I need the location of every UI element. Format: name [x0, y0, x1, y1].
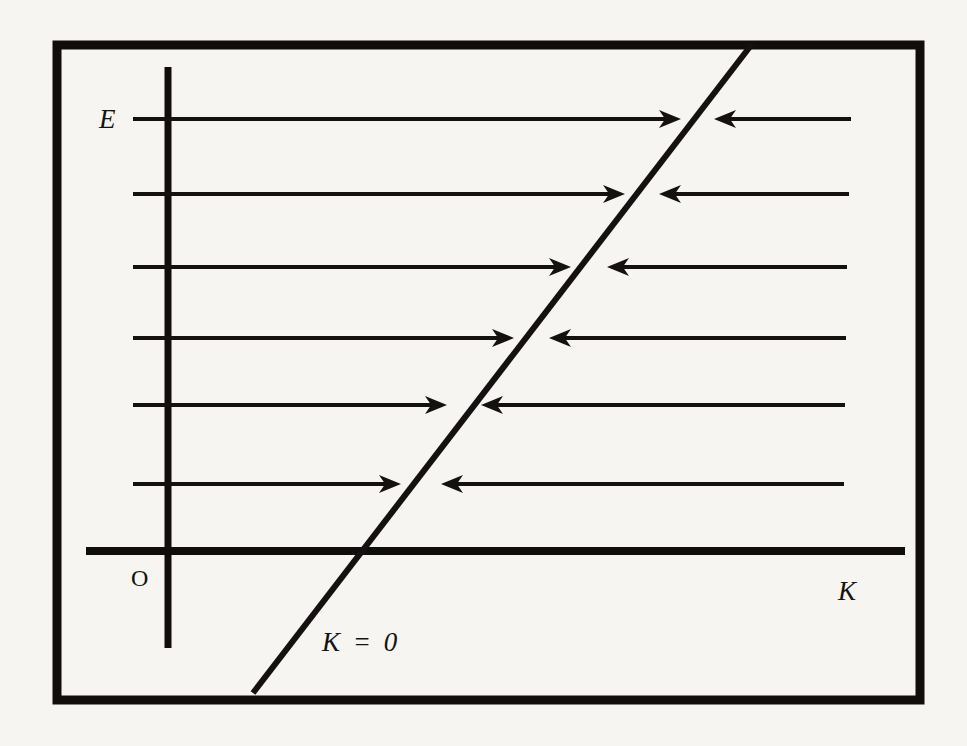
phase-diagram-svg: E K O K = 0 — [0, 0, 967, 746]
x-axis-label: K — [837, 576, 858, 606]
y-axis-label: E — [98, 104, 116, 134]
origin-label: O — [131, 565, 148, 591]
figure-background — [0, 0, 967, 746]
figure-canvas: E K O K = 0 — [0, 0, 967, 746]
nullcline-label: K = 0 — [321, 627, 400, 657]
